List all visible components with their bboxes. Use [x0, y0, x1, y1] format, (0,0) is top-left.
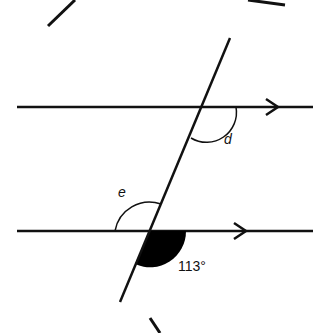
angle-113-label: 113° [178, 258, 206, 274]
diagram-canvas [0, 0, 313, 333]
diagram: d e 113° [0, 0, 313, 333]
fragment-line [48, 0, 75, 26]
angle-e-label: e [118, 184, 126, 200]
angle-e-arc [115, 202, 161, 231]
angle-d-label: d [224, 131, 232, 147]
transversal-line [120, 38, 230, 302]
fragment-line [150, 318, 160, 333]
fragment-line [248, 0, 285, 5]
